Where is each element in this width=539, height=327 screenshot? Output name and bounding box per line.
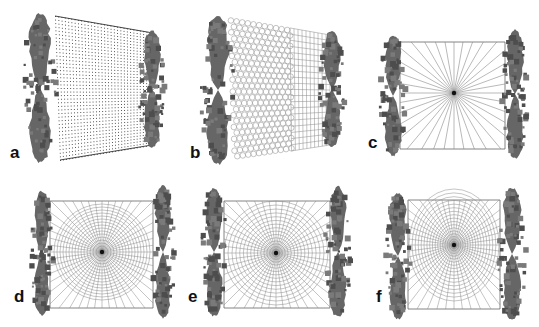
panel-label-e: e — [188, 288, 197, 305]
radial-spokes — [400, 42, 505, 149]
panel-a — [23, 13, 168, 163]
panel-label-d: d — [14, 288, 24, 305]
right-molecule — [499, 29, 529, 159]
hex-square-grid — [228, 18, 330, 159]
left-molecule — [378, 36, 408, 156]
panel-label-b: b — [190, 144, 200, 161]
panel-label-a: a — [10, 144, 19, 161]
right-molecule — [497, 188, 529, 320]
panel-b — [200, 16, 347, 165]
left-molecule — [23, 13, 59, 163]
panel-label-f: f — [376, 288, 382, 305]
left-molecule — [201, 188, 227, 317]
panel-f — [383, 188, 528, 320]
right-molecule — [323, 186, 353, 317]
polar-mesh — [224, 201, 330, 308]
left-molecule — [200, 16, 235, 165]
polar-mesh — [50, 201, 153, 308]
panel-e — [201, 186, 353, 317]
panel-c — [378, 29, 529, 159]
right-molecule — [151, 185, 177, 319]
panel-label-c: c — [368, 134, 377, 151]
left-molecule — [29, 191, 56, 316]
polar-mesh — [408, 189, 500, 309]
figure: a b c d e f — [0, 0, 539, 327]
right-molecule — [318, 31, 347, 147]
panel-d — [29, 185, 176, 319]
figure-canvas — [0, 0, 539, 327]
dot-grid — [55, 16, 154, 161]
